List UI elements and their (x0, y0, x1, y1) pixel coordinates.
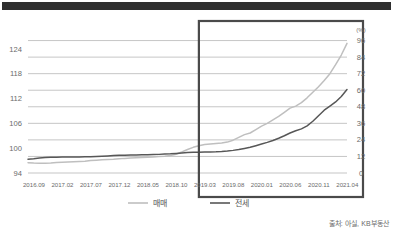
x-axis-tick-label: 2017.02 (51, 181, 74, 188)
legend-label-전세: 전세 (235, 198, 249, 208)
x-axis-tick-label: 2019.03 (194, 181, 217, 188)
header-rule (2, 2, 391, 10)
x-axis-tick-label: 2020.06 (279, 181, 302, 188)
x-axis-ticks: 2016.092017.022017.072017.122018.052018.… (23, 181, 359, 188)
right-axis-tick-label: 0 (359, 169, 363, 178)
right-axis-tick-label: 36 (357, 119, 365, 128)
legend-label-매매: 매매 (153, 199, 167, 208)
left-axis-ticks: 94100106112118124 (9, 45, 22, 178)
right-axis-tick-label: 24 (357, 135, 365, 144)
right-axis-tick-label: 84 (357, 53, 365, 62)
x-axis-tick-label: 2016.09 (23, 181, 46, 188)
x-axis-tick-label: 2018.05 (137, 181, 160, 188)
left-axis-tick-label: 118 (10, 69, 22, 78)
x-axis-tick-label: 2019.08 (222, 181, 245, 188)
right-axis-tick-label: 12 (357, 152, 365, 161)
right-axis-tick-label: 72 (357, 69, 365, 78)
percent-unit-label: (%) (356, 27, 365, 33)
series-lines (28, 43, 347, 163)
chart-plot-area: 94100106112118124 01224364860728496(%) 2… (0, 10, 395, 232)
right-axis-tick-label: 60 (357, 86, 365, 95)
right-axis-tick-label: 48 (357, 102, 365, 111)
right-axis-tick-label: 96 (357, 36, 365, 45)
left-axis-tick-label: 94 (14, 169, 22, 178)
chart-legend: 매매전세 (128, 198, 249, 208)
series-line-매매 (28, 43, 347, 163)
left-axis-tick-label: 112 (10, 94, 22, 103)
source-note: 출처: 아실, KB부동산 (329, 218, 389, 228)
x-axis-tick-label: 2017.12 (108, 181, 131, 188)
highlight-region (199, 21, 363, 197)
highlight-region-box (199, 21, 363, 197)
left-axis-tick-label: 100 (9, 144, 22, 153)
right-axis-ticks: 01224364860728496(%) (356, 27, 365, 178)
x-axis-tick-label: 2020.11 (308, 181, 330, 188)
left-axis-tick-label: 124 (9, 45, 22, 54)
x-axis-tick-label: 2021.04 (336, 181, 359, 188)
chart-figure: 94100106112118124 01224364860728496(%) 2… (0, 0, 395, 232)
x-axis-tick-label: 2020.01 (251, 181, 274, 188)
x-axis-tick-label: 2017.07 (80, 181, 103, 188)
line-chart-svg: 94100106112118124 01224364860728496(%) 2… (0, 10, 395, 232)
x-axis-tick-label: 2018.10 (165, 181, 188, 188)
left-axis-tick-label: 106 (9, 119, 22, 128)
